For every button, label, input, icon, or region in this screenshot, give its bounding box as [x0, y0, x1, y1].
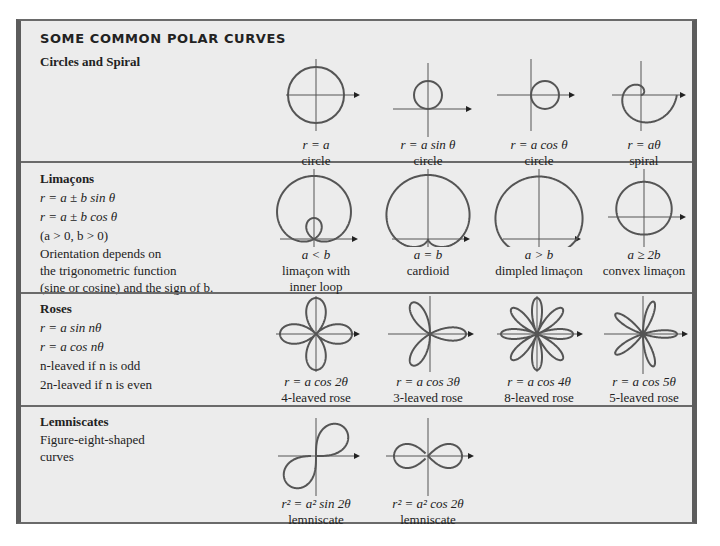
figure-equation: r = a cos 2θ	[256, 374, 376, 390]
figure-name: dimpled limaçon	[479, 263, 599, 279]
circle-curve-icon	[256, 57, 376, 137]
figure-condition: a ≥ 2b	[584, 247, 704, 263]
figure-equation: r = a	[256, 137, 376, 153]
limacon-note-line: Orientation depends on	[40, 245, 260, 262]
polar-curves-table: SOME COMMON POLAR CURVES Circles and Spi…	[16, 19, 697, 524]
rose-8-leaved-curve-icon	[479, 294, 599, 374]
figure-lemniscate-sin: r² = a² sin 2θ lemniscate	[256, 416, 376, 528]
figure-name: cardioid	[368, 263, 488, 279]
section-lemniscates: Lemniscates Figure-eight-shaped curves	[40, 412, 260, 465]
figure-equation: r = a cos 3θ	[368, 374, 488, 390]
rose-5-leaved-curve-icon	[584, 294, 704, 374]
figure-name: 3-leaved rose	[368, 390, 488, 406]
limacon-inner-loop-curve-icon	[256, 167, 376, 247]
figure-name: convex limaçon	[584, 263, 704, 279]
lemniscate-description: curves	[40, 448, 260, 465]
spiral-curve-icon	[584, 57, 704, 137]
figure-name: lemniscate	[256, 512, 376, 528]
circle-cos-curve-icon	[479, 57, 599, 137]
figure-equation: r = a cos θ	[479, 137, 599, 153]
rose-rule-odd: n-leaved if n is odd	[40, 356, 260, 375]
figure-equation: r² = a² cos 2θ	[368, 496, 488, 512]
limacon-condition: (a > 0, b > 0)	[40, 226, 260, 245]
section-heading: Lemniscates	[40, 412, 260, 431]
figure-name: 5-leaved rose	[584, 390, 704, 406]
limacon-equation-sin: r = a ± b sin θ	[40, 188, 260, 207]
rose-3-leaved-curve-icon	[368, 294, 488, 374]
figure-equation: r = a sin θ	[368, 137, 488, 153]
figure-circle-cos: r = a cos θ circle	[479, 57, 599, 169]
limacon-note-line: the trigonometric function	[40, 262, 260, 279]
section-heading: Limaçons	[40, 169, 260, 188]
figure-equation: r² = a² sin 2θ	[256, 496, 376, 512]
limacon-equation-cos: r = a ± b cos θ	[40, 207, 260, 226]
rose-4-leaved-curve-icon	[256, 294, 376, 374]
figure-rose-4-leaved: r = a cos 2θ 4-leaved rose	[256, 294, 376, 406]
convex-limacon-curve-icon	[584, 167, 704, 247]
figure-limacon-inner-loop: a < b limaçon with inner loop	[256, 167, 376, 295]
section-limacons: Limaçons r = a ± b sin θ r = a ± b cos θ…	[40, 169, 260, 296]
figure-circle-origin: r = a circle	[256, 57, 376, 169]
section-roses: Roses r = a sin nθ r = a cos nθ n-leaved…	[40, 299, 260, 394]
lemniscate-cos-curve-icon	[368, 416, 488, 496]
cardioid-curve-icon	[368, 167, 488, 247]
rose-rule-even: 2n-leaved if n is even	[40, 375, 260, 394]
figure-name: 8-leaved rose	[479, 390, 599, 406]
lemniscate-sin-curve-icon	[256, 416, 376, 496]
figure-dimpled-limacon: a > b dimpled limaçon	[479, 167, 599, 279]
circle-sin-curve-icon	[368, 57, 488, 137]
table-title: SOME COMMON POLAR CURVES	[40, 31, 286, 46]
dimpled-limacon-curve-icon	[479, 167, 599, 247]
figure-equation: r = a cos 4θ	[479, 374, 599, 390]
rose-equation-sin: r = a sin nθ	[40, 318, 260, 337]
section-circles-spiral: Circles and Spiral	[40, 52, 260, 71]
figure-lemniscate-cos: r² = a² cos 2θ lemniscate	[368, 416, 488, 528]
figure-circle-sin: r = a sin θ circle	[368, 57, 488, 169]
figure-cardioid: a = b cardioid	[368, 167, 488, 279]
section-heading: Roses	[40, 299, 260, 318]
figure-spiral: r = aθ spiral	[584, 57, 704, 169]
figure-rose-5-leaved: r = a cos 5θ 5-leaved rose	[584, 294, 704, 406]
figure-rose-3-leaved: r = a cos 3θ 3-leaved rose	[368, 294, 488, 406]
lemniscate-description: Figure-eight-shaped	[40, 431, 260, 448]
figure-name-line2: inner loop	[256, 279, 376, 295]
figure-name: limaçon with	[256, 263, 376, 279]
section-heading: Circles and Spiral	[40, 52, 260, 71]
figure-condition: a > b	[479, 247, 599, 263]
rose-equation-cos: r = a cos nθ	[40, 337, 260, 356]
figure-equation: r = aθ	[584, 137, 704, 153]
figure-condition: a = b	[368, 247, 488, 263]
figure-convex-limacon: a ≥ 2b convex limaçon	[584, 167, 704, 279]
figure-name: lemniscate	[368, 512, 488, 528]
figure-rose-8-leaved: r = a cos 4θ 8-leaved rose	[479, 294, 599, 406]
figure-name: 4-leaved rose	[256, 390, 376, 406]
figure-equation: r = a cos 5θ	[584, 374, 704, 390]
figure-condition: a < b	[256, 247, 376, 263]
